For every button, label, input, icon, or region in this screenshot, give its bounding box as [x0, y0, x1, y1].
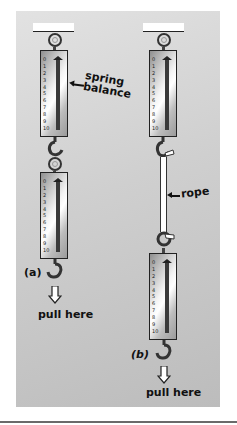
scale-indicator	[165, 58, 169, 130]
pull-arrow-b-icon	[157, 366, 171, 384]
scale-indicator	[56, 58, 60, 130]
scale-numbers: 0 1 2 3 4 5 6 7 8 9 10	[43, 57, 53, 131]
link-ring-a	[48, 157, 62, 171]
pull-arrow-a-icon	[48, 286, 62, 304]
scale-numbers: 0 1 2 3 4 5 6 7 8 9 10	[43, 179, 53, 253]
ceiling-bar-a	[33, 23, 74, 32]
scale-numbers: 0 1 2 3 4 5 6 7 8 9 10	[152, 57, 162, 131]
top-ring-a	[48, 33, 62, 47]
pull-here-label-a: pull here	[38, 308, 93, 321]
ceiling-bar-b	[143, 23, 184, 32]
scale-numbers: 0 1 2 3 4 5 6 7 8 9 10	[152, 260, 162, 334]
pull-here-label-b: pull here	[146, 386, 201, 399]
top-ring-b	[157, 33, 171, 47]
rope-knot-ring-b	[154, 228, 178, 250]
part-b-label: (b)	[131, 348, 149, 361]
part-a-label: (a)	[24, 266, 41, 279]
rope	[160, 157, 167, 232]
hook-b-bottom	[153, 340, 175, 366]
bottom-divider	[0, 421, 237, 423]
spring-balance-b-upper: 0 1 2 3 4 5 6 7 8 9 10	[149, 50, 177, 137]
scale-indicator	[56, 180, 60, 252]
spring-balance-b-lower: 0 1 2 3 4 5 6 7 8 9 10	[149, 253, 177, 340]
rope-pointer-arrow	[170, 195, 180, 197]
spring-balance-a-upper: 0 1 2 3 4 5 6 7 8 9 10	[40, 50, 68, 137]
spring-balance-a-lower: 0 1 2 3 4 5 6 7 8 9 10	[40, 172, 68, 259]
scale-indicator	[165, 261, 169, 333]
hook-a-bottom	[44, 259, 66, 285]
